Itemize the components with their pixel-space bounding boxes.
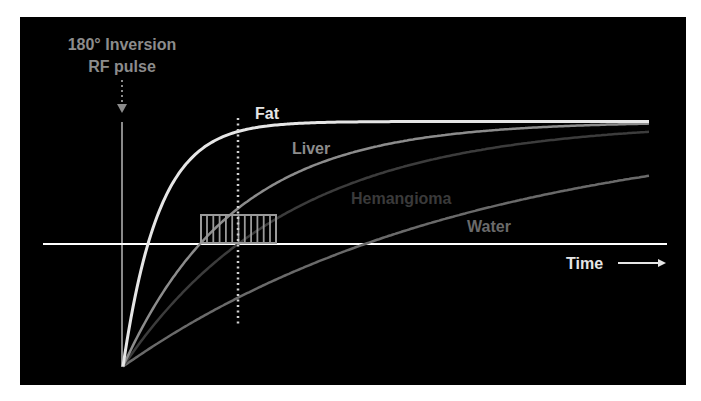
- inversion-recovery-chart: 180° Inversion RF pulse Fat Liver Hemang…: [0, 0, 701, 401]
- label-hemangioma: Hemangioma: [351, 190, 452, 207]
- label-fat: Fat: [255, 105, 280, 122]
- curve-hemangioma: [123, 132, 649, 367]
- curve-liver: [123, 124, 649, 367]
- annotation-line2: RF pulse: [88, 58, 156, 75]
- annotation-line1: 180° Inversion: [68, 36, 177, 53]
- label-water: Water: [467, 218, 511, 235]
- time-axis-label: Time: [566, 255, 603, 272]
- label-liver: Liver: [292, 140, 330, 157]
- time-arrowhead-icon: [658, 259, 666, 267]
- arrow-down-icon: [117, 104, 127, 113]
